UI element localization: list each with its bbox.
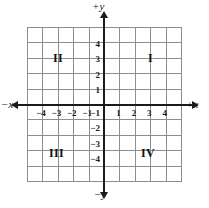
y-tick-label-neg3: −3 — [86, 139, 100, 149]
y-tick-label-1: 1 — [86, 85, 100, 95]
x-tick-label-3: 3 — [142, 108, 156, 118]
x-tick-label-1: 1 — [112, 108, 126, 118]
negative-y-axis-label: −y — [94, 188, 106, 200]
x-tick-label-4: 4 — [158, 108, 172, 118]
y-tick-label-3: 3 — [86, 54, 100, 64]
y-tick-label-neg4: −4 — [86, 154, 100, 164]
y-tick-label-neg1: −1 — [86, 108, 100, 118]
y-tick-label-2: 2 — [86, 70, 100, 80]
quadrant-label-three: III — [49, 146, 64, 161]
quadrant-label-four: IV — [141, 146, 155, 161]
quadrant-label-two: II — [53, 51, 63, 66]
quadrant-label-one: I — [148, 51, 153, 66]
negative-x-axis-label: −x — [1, 98, 13, 110]
positive-x-axis-label: +x — [186, 98, 198, 110]
y-tick-label-4: 4 — [86, 39, 100, 49]
coordinate-plane-diagram: +y −y −x +x −4 −3 −2 −1 1 2 3 4 4 3 2 1 … — [0, 0, 209, 208]
y-axis-positive-arrow-icon — [100, 11, 108, 18]
y-axis — [103, 16, 105, 193]
x-tick-label-neg2: −2 — [65, 108, 79, 118]
x-tick-label-neg4: −4 — [34, 108, 48, 118]
y-tick-label-neg2: −2 — [86, 123, 100, 133]
positive-y-axis-label: +y — [92, 0, 104, 12]
x-tick-label-2: 2 — [127, 108, 141, 118]
x-tick-label-neg3: −3 — [49, 108, 63, 118]
